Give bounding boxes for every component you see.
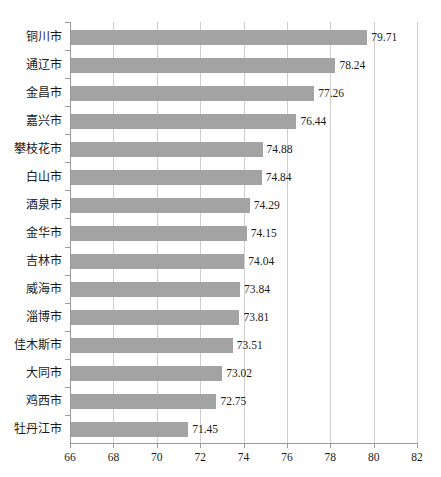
x-axis-tick-label: 78 [310,450,350,464]
category-label: 金华市 [0,224,62,242]
x-axis-tick-label: 72 [180,450,220,464]
bar-row[interactable]: 淄博市73.81 [0,310,441,325]
x-axis-tick-label: 66 [50,450,90,464]
bar[interactable] [71,366,222,381]
x-axis-tick-mark [417,443,418,448]
bar[interactable] [71,198,250,213]
category-label: 威海市 [0,280,62,298]
y-axis-tick-mark [65,303,70,304]
bar-row[interactable]: 酒泉市74.29 [0,198,441,213]
bar[interactable] [71,422,188,437]
bar-value-label: 73.51 [237,337,263,353]
bar-row[interactable]: 威海市73.84 [0,282,441,297]
bar-value-label: 76.44 [300,113,326,129]
category-label: 攀枝花市 [0,140,62,158]
category-label: 酒泉市 [0,196,62,214]
x-axis-tick-mark [244,443,245,448]
x-axis-tick-mark [374,443,375,448]
bar-chart: 666870727476788082 铜川市79.71通辽市78.24金昌市77… [0,0,441,477]
bar-value-label: 77.26 [318,85,344,101]
bar[interactable] [71,114,296,129]
category-label: 鸡西市 [0,392,62,410]
y-axis-tick-mark [65,22,70,23]
bar-value-label: 73.81 [243,309,269,325]
bar-row[interactable]: 通辽市78.24 [0,58,441,73]
y-axis-tick-mark [65,331,70,332]
x-axis-tick-label: 82 [397,450,437,464]
bar-value-label: 74.29 [254,197,280,213]
bar[interactable] [71,254,244,269]
bar-row[interactable]: 铜川市79.71 [0,30,441,45]
x-axis-tick-mark [70,443,71,448]
x-axis-tick-mark [330,443,331,448]
y-axis-tick-mark [65,415,70,416]
x-axis-tick-label: 74 [224,450,264,464]
category-label: 白山市 [0,168,62,186]
bar-row[interactable]: 嘉兴市76.44 [0,114,441,129]
bar-value-label: 72.75 [220,393,246,409]
bar-row[interactable]: 鸡西市72.75 [0,394,441,409]
x-axis-tick-label: 70 [137,450,177,464]
bar-value-label: 74.84 [266,169,292,185]
category-label: 嘉兴市 [0,112,62,130]
bar[interactable] [71,338,233,353]
y-axis-tick-mark [65,359,70,360]
bar[interactable] [71,226,247,241]
x-axis-tick-mark [287,443,288,448]
bar-row[interactable]: 佳木斯市73.51 [0,338,441,353]
y-axis-tick-mark [65,78,70,79]
y-axis-tick-mark [65,218,70,219]
bar-row[interactable]: 金昌市77.26 [0,86,441,101]
bar-value-label: 71.45 [192,421,218,437]
bar[interactable] [71,394,216,409]
bar-value-label: 74.04 [248,253,274,269]
x-axis-tick-label: 68 [93,450,133,464]
category-label: 吉林市 [0,252,62,270]
x-axis-tick-label: 80 [354,450,394,464]
y-axis-tick-mark [65,134,70,135]
x-axis-tick-mark [157,443,158,448]
category-label: 淄博市 [0,308,62,326]
x-axis-tick-mark [113,443,114,448]
y-axis-tick-mark [65,275,70,276]
bar-value-label: 78.24 [339,57,365,73]
bar-value-label: 79.71 [371,29,397,45]
bar-row[interactable]: 大同市73.02 [0,366,441,381]
y-axis-tick-mark [65,387,70,388]
bar-row[interactable]: 牡丹江市71.45 [0,422,441,437]
category-label: 金昌市 [0,84,62,102]
y-axis-tick-mark [65,50,70,51]
bar[interactable] [71,170,262,185]
y-axis-tick-mark [65,247,70,248]
bar[interactable] [71,86,314,101]
category-label: 佳木斯市 [0,336,62,354]
bar-row[interactable]: 金华市74.15 [0,226,441,241]
bar[interactable] [71,282,240,297]
bar-value-label: 74.15 [251,225,277,241]
bar-value-label: 73.84 [244,281,270,297]
bar-value-label: 73.02 [226,365,252,381]
y-axis-tick-mark [65,162,70,163]
bar-row[interactable]: 白山市74.84 [0,170,441,185]
bar-row[interactable]: 吉林市74.04 [0,254,441,269]
category-label: 铜川市 [0,28,62,46]
bar-row[interactable]: 攀枝花市74.88 [0,142,441,157]
y-axis-tick-mark [65,190,70,191]
bar[interactable] [71,58,335,73]
bar-value-label: 74.88 [267,141,293,157]
category-label: 大同市 [0,364,62,382]
bar[interactable] [71,30,367,45]
category-label: 通辽市 [0,56,62,74]
bar[interactable] [71,310,239,325]
y-axis-tick-mark [65,106,70,107]
bar[interactable] [71,142,263,157]
x-axis-tick-mark [200,443,201,448]
category-label: 牡丹江市 [0,420,62,438]
x-axis-tick-label: 76 [267,450,307,464]
